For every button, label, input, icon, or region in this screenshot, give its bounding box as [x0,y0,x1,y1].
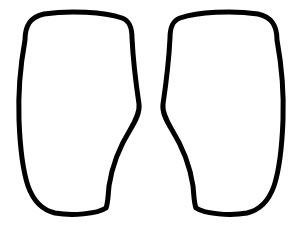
artboard [0,0,302,228]
line-art-canvas [0,0,302,228]
